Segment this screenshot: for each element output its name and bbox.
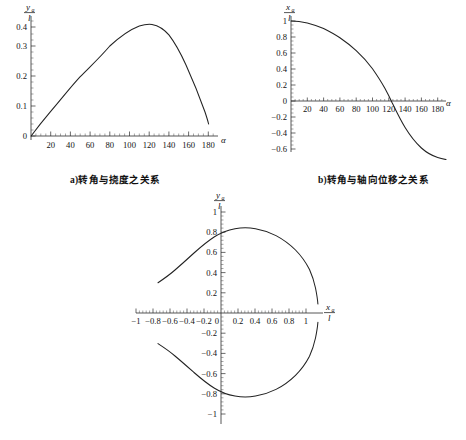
chart-b-xtick-140: 140 (399, 104, 412, 114)
chart-c-ytick-n0.2: −0.2 (201, 328, 217, 338)
chart-c-curve-lower (158, 322, 318, 397)
chart-c-xtick-n0.2: −0.2 (196, 316, 212, 326)
chart-a-xaxis-label: α (221, 135, 226, 145)
chart-b-svg: 1 0.8 0.6 0.4 0.2 0 −0.2 −0.4 −0.6 (246, 0, 466, 160)
chart-c-ytick-0.6: 0.6 (206, 247, 217, 257)
chart-a-xtick-40: 40 (66, 140, 75, 150)
chart-c-xtick-n0.8: −0.8 (145, 316, 161, 326)
chart-c-xtick-n0.6: −0.6 (162, 316, 178, 326)
chart-a-ytick-0.3: 0.3 (16, 41, 27, 51)
chart-a-xtick-120: 120 (143, 140, 156, 150)
chart-b-yaxis-subscript: a (292, 7, 295, 13)
chart-c-xaxis-numerator: x (325, 302, 330, 312)
chart-b-xtick-60: 60 (336, 104, 345, 114)
chart-a-xtick-60: 60 (86, 140, 95, 150)
chart-c-xaxis-label: x a l (324, 302, 335, 323)
chart-b-y-ticks (291, 21, 296, 149)
chart-b-xtick-100: 100 (366, 104, 379, 114)
chart-a-ytick-0.1: 0.1 (16, 101, 27, 111)
chart-b-ytick-1: 1 (283, 16, 287, 26)
chart-c-svg: −1 −0.8 −0.6 −0.4 −0.2 0 0.2 0.4 0.6 0.8… (118, 188, 368, 440)
chart-c-xtick-0.6: 0.6 (267, 316, 278, 326)
chart-c-xtick-n1: −1 (131, 316, 140, 326)
chart-a-yaxis-subscript: a (32, 7, 35, 13)
chart-c-xtick-0.2: 0.2 (233, 316, 244, 326)
chart-c-ytick-0.4: 0.4 (206, 268, 217, 278)
chart-b-ytick-0.4: 0.4 (276, 64, 287, 74)
chart-panel-a: 0 0.1 0.2 0.3 0.4 (0, 0, 240, 160)
chart-c-ytick-n0.8: −0.8 (201, 389, 217, 399)
chart-b-curve (291, 21, 446, 160)
chart-b-yaxis-numerator: x (285, 2, 290, 12)
chart-c-xtick-0.8: 0.8 (284, 316, 295, 326)
chart-c-curve-upper (158, 228, 318, 304)
chart-c-yaxis-numerator: y (215, 190, 220, 200)
chart-b-x-ticks (295, 98, 442, 102)
chart-a-yaxis-numerator: y (25, 2, 30, 12)
chart-b-ytick-n0.6: −0.6 (271, 144, 287, 154)
chart-b-xtick-80: 80 (352, 104, 361, 114)
caption-a: a)转角与挠度之关系 (70, 172, 160, 186)
chart-a-xtick-160: 160 (182, 140, 195, 150)
chart-b-ytick-n0.2: −0.2 (271, 112, 287, 122)
chart-c-ytick-n0.4: −0.4 (201, 348, 217, 358)
figure-root: 0 0.1 0.2 0.3 0.4 (0, 0, 466, 440)
chart-a-xtick-140: 140 (162, 140, 175, 150)
chart-a-x-ticks (36, 132, 213, 137)
chart-a-y-ticks (31, 21, 36, 136)
chart-a-ytick-0.4: 0.4 (16, 22, 27, 32)
chart-a-ytick-0: 0 (23, 131, 27, 141)
chart-a-ytick-0.2: 0.2 (16, 71, 27, 81)
chart-c-xtick-0: 0 (215, 316, 219, 326)
chart-c-ytick-0.2: 0.2 (206, 288, 217, 298)
chart-panel-b: 1 0.8 0.6 0.4 0.2 0 −0.2 −0.4 −0.6 (246, 0, 466, 160)
chart-b-ytick-0.8: 0.8 (276, 32, 287, 42)
chart-b-yaxis-denominator: l (288, 13, 291, 23)
chart-c-ytick-n1: −1 (208, 409, 217, 419)
chart-c-yaxis-denominator: l (218, 201, 221, 211)
chart-c-ytick-1: 1 (213, 207, 217, 217)
chart-a-xtick-80: 80 (106, 140, 115, 150)
chart-a-xtick-180: 180 (202, 140, 215, 150)
chart-b-xtick-40: 40 (319, 104, 328, 114)
chart-c-yaxis-subscript: a (222, 195, 225, 201)
chart-a-curve (31, 24, 209, 136)
chart-c-xtick-0.4: 0.4 (250, 316, 261, 326)
chart-b-ytick-0: 0 (283, 96, 287, 106)
chart-a-svg: 0 0.1 0.2 0.3 0.4 (0, 0, 240, 160)
chart-b-xtick-160: 160 (415, 104, 428, 114)
chart-b-ytick-0.2: 0.2 (276, 80, 287, 90)
chart-c-xaxis-subscript: a (332, 307, 335, 313)
chart-b-xtick-180: 180 (431, 104, 444, 114)
chart-c-xtick-n0.4: −0.4 (179, 316, 195, 326)
chart-c-xaxis-denominator: l (328, 313, 331, 323)
chart-c-xtick-1: 1 (304, 316, 308, 326)
chart-b-ytick-0.6: 0.6 (276, 48, 287, 58)
caption-b: b)转角与轴向位移之关系 (318, 172, 429, 186)
chart-panel-c: −1 −0.8 −0.6 −0.4 −0.2 0 0.2 0.4 0.6 0.8… (118, 188, 368, 440)
chart-a-yaxis-label: y a l (24, 2, 35, 23)
chart-a-xtick-20: 20 (46, 140, 55, 150)
chart-a-xtick-100: 100 (123, 140, 136, 150)
chart-a-yaxis-denominator: l (28, 13, 31, 23)
chart-b-ytick-n0.4: −0.4 (271, 128, 287, 138)
chart-c-ytick-n0.6: −0.6 (201, 369, 217, 379)
chart-b-xaxis-label: α (446, 98, 451, 108)
chart-b-xtick-20: 20 (303, 104, 312, 114)
